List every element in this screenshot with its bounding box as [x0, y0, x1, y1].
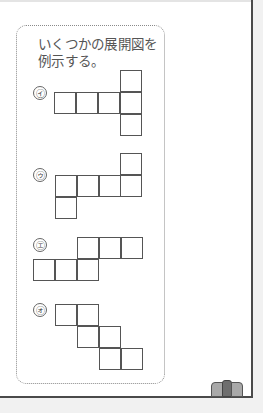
book-right	[231, 382, 243, 397]
net-square	[77, 175, 99, 197]
net-square	[99, 326, 121, 348]
net-square	[77, 259, 99, 281]
net-square	[55, 197, 77, 219]
top-edge	[0, 0, 251, 2]
note-line-1: いくつかの展開図を	[38, 36, 158, 53]
net-square	[77, 237, 99, 259]
net-label-e: ㋓	[33, 238, 47, 252]
net-square	[54, 92, 76, 114]
note-text: いくつかの展開図を 例示する。	[38, 36, 158, 70]
net-square	[120, 114, 142, 136]
net-square	[121, 348, 143, 370]
net-label-i: ㋑	[33, 86, 47, 100]
net-label-u: ㋒	[33, 168, 47, 182]
net-square	[120, 175, 142, 197]
net-square	[55, 259, 77, 281]
net-square	[120, 70, 142, 92]
net-square	[121, 237, 143, 259]
net-square	[76, 92, 98, 114]
net-square	[77, 326, 99, 348]
net-square	[77, 304, 99, 326]
note-line-2: 例示する。	[38, 53, 158, 70]
net-square	[99, 175, 121, 197]
net-square	[99, 348, 121, 370]
net-square	[55, 304, 77, 326]
net-square	[98, 92, 120, 114]
net-square	[55, 175, 77, 197]
net-square	[99, 237, 121, 259]
net-square	[120, 153, 142, 175]
book-icon[interactable]	[211, 380, 243, 397]
page: いくつかの展開図を 例示する。 ㋑ ㋒ ㋓ ㋔	[0, 0, 253, 398]
net-square	[33, 259, 55, 281]
net-label-o: ㋔	[33, 303, 47, 317]
net-square	[120, 92, 142, 114]
